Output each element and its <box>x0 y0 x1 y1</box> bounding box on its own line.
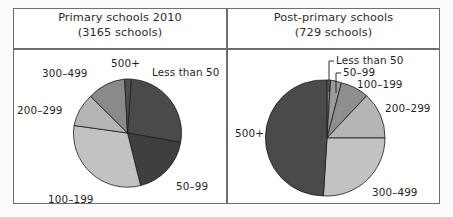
label-primary-200-299: 200–299 <box>17 104 63 116</box>
label-postprimary-50-99: 50–99 <box>343 66 375 78</box>
pie-postprimary: Less than 50 50–99 100–199 200–299 300–4… <box>235 54 431 198</box>
slice-postprimary-500-plus <box>265 80 327 196</box>
label-postprimary-less-than-50: Less than 50 <box>336 54 403 66</box>
label-primary-500-plus: 500+ <box>111 57 140 69</box>
label-primary-300-499: 300–499 <box>42 67 88 79</box>
label-postprimary-500-plus: 500+ <box>235 127 264 139</box>
label-primary-100-199: 100–199 <box>48 193 94 205</box>
label-postprimary-200-299: 200–299 <box>385 102 431 114</box>
label-primary-50-99: 50–99 <box>176 180 208 192</box>
slice-primary-less-than-50 <box>128 79 182 142</box>
label-postprimary-300-499: 300–499 <box>372 186 418 198</box>
figure-container: Primary schools 2010 (3165 schools) Post… <box>0 0 453 217</box>
label-postprimary-100-199: 100–199 <box>357 78 403 90</box>
pie-charts-svg: Less than 50 50–99 100–199 200–299 300–4… <box>0 0 453 217</box>
pie-primary: Less than 50 50–99 100–199 200–299 300–4… <box>17 57 219 205</box>
label-primary-less-than-50: Less than 50 <box>152 66 219 78</box>
